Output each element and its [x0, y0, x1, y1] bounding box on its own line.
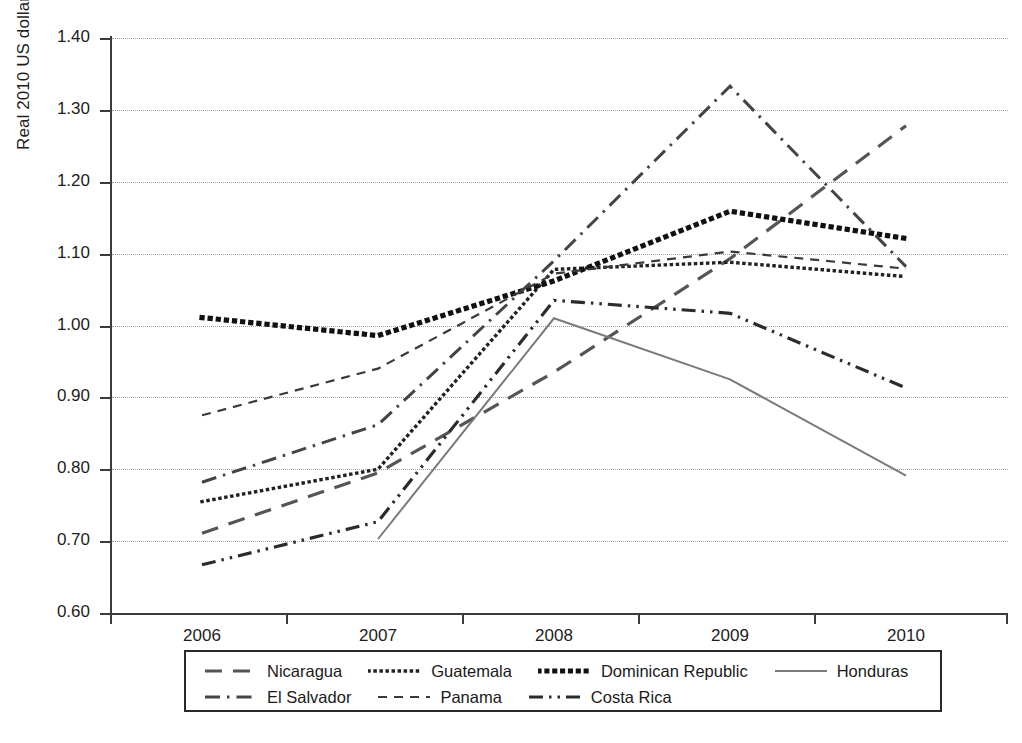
y-tick-mark: [100, 254, 111, 256]
y-tick-label: 0.70: [26, 530, 90, 550]
gridline: [112, 469, 1008, 470]
y-axis-title: Real 2010 US dollars per kilo: [14, 0, 42, 150]
y-tick-label: 0.90: [26, 386, 90, 406]
y-tick-mark: [100, 182, 111, 184]
legend-label: Panama: [440, 689, 501, 706]
legend-item-honduras[interactable]: Honduras: [774, 663, 909, 680]
legend-item-costa-rica[interactable]: Costa Rica: [528, 689, 672, 706]
x-tick-label: 2008: [504, 626, 604, 646]
legend-label: Guatemala: [431, 663, 512, 680]
gridline: [112, 254, 1008, 255]
legend-item-panama[interactable]: Panama: [377, 689, 501, 706]
x-tick-mark: [462, 613, 464, 624]
gridline: [112, 38, 1008, 39]
y-tick-mark: [100, 38, 111, 40]
gridline: [112, 541, 1008, 542]
legend-line-swatch-icon: [204, 664, 258, 678]
chart-figure: Real 2010 US dollars per kilo 1.401.301.…: [0, 0, 1022, 743]
gridline: [112, 182, 1008, 183]
series-line-nicaragua: [202, 126, 906, 534]
x-tick-mark: [110, 613, 112, 624]
series-line-panama: [202, 252, 906, 416]
y-tick-label: 1.10: [26, 243, 90, 263]
legend-row-2: El SalvadorPanamaCosta Rica: [204, 684, 930, 710]
y-tick-label: 0.80: [26, 458, 90, 478]
legend-row-1: NicaraguaGuatemalaDominican RepublicHond…: [204, 658, 930, 684]
legend-label: El Salvador: [267, 689, 351, 706]
legend-item-guatemala[interactable]: Guatemala: [368, 663, 512, 680]
y-tick-label: 1.00: [26, 315, 90, 335]
legend: NicaraguaGuatemalaDominican RepublicHond…: [184, 650, 942, 712]
x-tick-label: 2010: [856, 626, 956, 646]
x-tick-mark: [286, 613, 288, 624]
legend-label: Costa Rica: [591, 689, 672, 706]
y-tick-mark: [100, 541, 111, 543]
y-tick-mark: [100, 110, 111, 112]
series-line-dominican-republic: [202, 211, 906, 335]
legend-label: Nicaragua: [267, 663, 342, 680]
x-tick-mark: [814, 613, 816, 624]
legend-line-swatch-icon: [204, 690, 258, 704]
legend-label: Dominican Republic: [601, 663, 748, 680]
y-tick-mark: [100, 469, 111, 471]
legend-line-swatch-icon: [774, 664, 828, 678]
x-tick-label: 2007: [328, 626, 428, 646]
gridline: [112, 110, 1008, 111]
y-tick-mark: [100, 397, 111, 399]
legend-item-nicaragua[interactable]: Nicaragua: [204, 663, 342, 680]
y-tick-label: 1.30: [26, 99, 90, 119]
legend-line-swatch-icon: [538, 664, 592, 678]
series-line-guatemala: [202, 262, 906, 501]
x-tick-mark: [1006, 613, 1008, 624]
x-tick-label: 2006: [152, 626, 252, 646]
legend-line-swatch-icon: [528, 690, 582, 704]
legend-item-dominican-republic[interactable]: Dominican Republic: [538, 663, 748, 680]
x-axis-line: [110, 613, 1008, 615]
x-tick-mark: [638, 613, 640, 624]
legend-line-swatch-icon: [368, 664, 422, 678]
y-tick-mark: [100, 326, 111, 328]
legend-line-swatch-icon: [377, 690, 431, 704]
y-tick-label: 1.40: [26, 27, 90, 47]
series-line-el-salvador: [202, 86, 906, 482]
legend-label: Honduras: [837, 663, 909, 680]
series-line-costa-rica: [202, 300, 906, 565]
gridline: [112, 397, 1008, 398]
y-axis-title-wrap: Real 2010 US dollars per kilo: [0, 0, 60, 620]
series-line-honduras: [378, 318, 906, 539]
y-tick-label: 1.20: [26, 171, 90, 191]
gridline: [112, 326, 1008, 327]
legend-item-el-salvador[interactable]: El Salvador: [204, 689, 351, 706]
x-tick-label: 2009: [680, 626, 780, 646]
y-tick-label: 0.60: [26, 602, 90, 622]
